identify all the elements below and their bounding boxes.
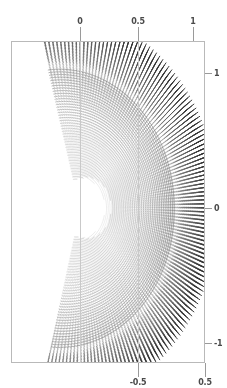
tick-bottom-1 [205, 363, 206, 377]
gridline-vertical-1 [138, 42, 139, 363]
ticklabel-bottom-0: -0.5 [130, 378, 147, 387]
tick-top-2 [193, 27, 194, 41]
tick-top-0 [80, 27, 81, 41]
tick-right-2 [205, 343, 212, 344]
figure-container: 00.51 -0.50.5 10-1 [0, 0, 227, 388]
tick-bottom-0 [138, 363, 139, 377]
gridline-vertical-0 [80, 42, 81, 363]
ticklabel-right-2: -1 [214, 339, 223, 348]
ticklabel-top-1: 0.5 [131, 17, 145, 26]
ticklabel-bottom-1: 0.5 [198, 378, 212, 387]
ticklabel-right-1: 0 [214, 204, 219, 213]
ticklabel-top-2: 1 [190, 17, 195, 26]
vector-field-plot-canvas [0, 0, 227, 388]
tick-top-1 [138, 27, 139, 41]
tick-right-1 [205, 208, 212, 209]
ticklabel-top-0: 0 [77, 17, 82, 26]
tick-right-0 [205, 73, 212, 74]
ticklabel-right-0: 1 [214, 69, 219, 78]
